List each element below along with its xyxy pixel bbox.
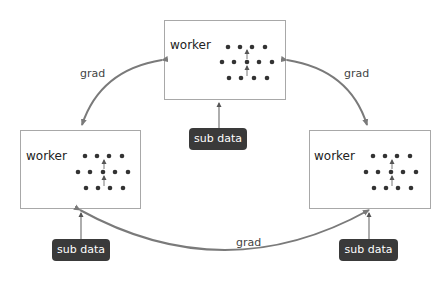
- worker-label-top: worker: [170, 38, 211, 52]
- sub-data-badge-right: sub data: [339, 239, 398, 261]
- sub-data-badge-left: sub data: [52, 239, 110, 261]
- grad-arrow-left-right: [80, 210, 369, 250]
- grad-label-bottom: grad: [236, 236, 261, 249]
- worker-label-right: worker: [314, 149, 355, 163]
- worker-label-left: worker: [26, 149, 67, 163]
- network-icon-left: [76, 154, 131, 191]
- grad-label-top-left: grad: [80, 67, 105, 80]
- network-icon-right: [364, 154, 419, 191]
- grad-label-top-right: grad: [344, 67, 369, 80]
- sub-data-badge-top: sub data: [189, 128, 247, 150]
- network-icon-top: [220, 45, 275, 81]
